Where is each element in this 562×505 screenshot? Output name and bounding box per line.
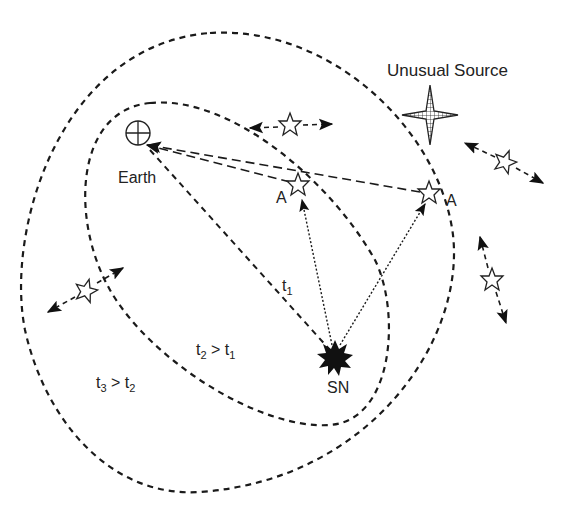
star-a2-label: A xyxy=(446,193,457,209)
supernova-icon xyxy=(317,340,353,376)
earth-label: Earth xyxy=(118,170,156,186)
star-right-lower-icon xyxy=(481,268,503,290)
star-a2-icon xyxy=(418,181,440,203)
star-left-icon xyxy=(73,277,100,304)
t2-label: t2 > t1 xyxy=(196,342,235,361)
supernova-label: SN xyxy=(327,380,349,396)
star-ru-motion-down xyxy=(516,168,543,183)
light-echo-diagram: Unusual Source Earth A A SN t1 t2 > t1 t… xyxy=(0,0,562,505)
unusual-source-icon xyxy=(402,85,458,145)
star-ru-motion-up xyxy=(465,143,495,157)
unusual-source-label: Unusual Source xyxy=(387,62,508,79)
t1-path xyxy=(150,150,330,350)
t3-label: t3 > t2 xyxy=(96,375,135,394)
star-rl-motion-down xyxy=(496,292,506,323)
star-top-icon xyxy=(279,113,301,135)
path-a1-earth xyxy=(147,145,290,182)
star-right-upper-icon xyxy=(491,147,519,175)
star-left-motion-out xyxy=(48,297,75,312)
star-rl-motion-up xyxy=(480,237,488,268)
star-top-motion-left xyxy=(250,127,278,128)
path-a2-earth xyxy=(148,145,420,192)
star-top-motion-right xyxy=(303,124,332,125)
star-a1-label: A xyxy=(276,190,287,206)
earth-icon xyxy=(126,121,150,145)
t1-label: t1 xyxy=(282,278,293,297)
star-a1-icon xyxy=(287,173,309,195)
